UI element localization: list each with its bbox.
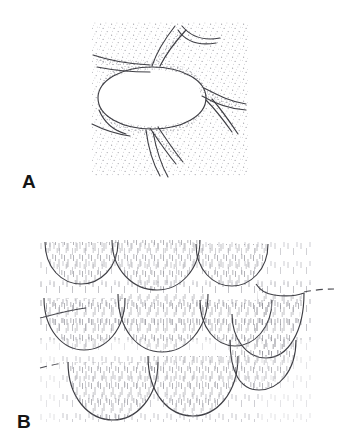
scale-row-top — [45, 240, 268, 290]
panel-a-artwork — [0, 0, 340, 222]
panel-b: B — [0, 222, 340, 444]
panel-a: A — [0, 0, 340, 222]
foreground-hatch — [60, 352, 260, 422]
panel-label-a: A — [22, 172, 36, 191]
figure-root: A — [0, 0, 340, 444]
panel-label-b: B — [17, 412, 31, 431]
panel-b-artwork — [0, 222, 340, 444]
